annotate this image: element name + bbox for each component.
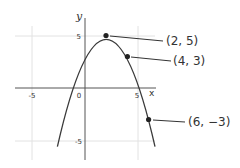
- x-axis-label: x: [149, 88, 155, 98]
- x-tick-label: -5: [29, 92, 36, 100]
- point-label: (2, 5): [166, 34, 198, 48]
- leader-line: [131, 57, 171, 61]
- y-axis-label: y: [75, 10, 83, 23]
- leader-line: [153, 120, 185, 122]
- axes: [15, 18, 156, 160]
- point-marker: [146, 117, 151, 122]
- point-label: (6, −3): [188, 115, 230, 129]
- y-tick-label: 5: [77, 33, 81, 41]
- leader-line: [110, 36, 163, 41]
- origin-label: 0: [77, 92, 81, 100]
- parabola-chart: -5 0 5 5 -5 y x (2, 5) (4, 3) (6, −3): [0, 0, 240, 168]
- x-tick-label: 5: [135, 92, 139, 100]
- point-marker: [125, 54, 130, 59]
- parabola-curve: [57, 39, 155, 146]
- point-marker: [103, 33, 108, 38]
- y-tick-label: -5: [75, 138, 82, 146]
- point-label: (4, 3): [173, 54, 205, 68]
